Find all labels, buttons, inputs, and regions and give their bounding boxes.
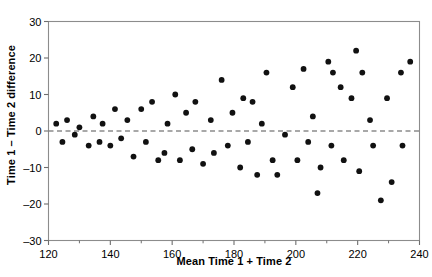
data-point	[97, 139, 103, 145]
data-point	[315, 190, 321, 196]
data-point	[353, 48, 359, 54]
data-point	[60, 139, 66, 145]
data-point	[172, 92, 178, 98]
data-point	[155, 157, 161, 163]
data-point	[282, 132, 288, 138]
data-point	[219, 77, 225, 83]
data-point	[189, 146, 195, 152]
data-point	[165, 121, 171, 127]
data-point	[64, 117, 70, 123]
data-point	[240, 95, 246, 101]
data-point	[378, 197, 384, 203]
y-tick-label: 30	[29, 16, 41, 28]
data-point	[124, 117, 130, 123]
y-tick-label: 0	[35, 125, 41, 137]
data-point	[107, 143, 113, 149]
data-point	[407, 59, 413, 65]
data-point	[138, 106, 144, 112]
x-axis-title: Mean Time 1 + Time 2	[48, 255, 420, 267]
data-point	[53, 121, 59, 127]
data-point	[254, 172, 260, 178]
y-tick-label: –10	[23, 162, 41, 174]
data-point	[400, 143, 406, 149]
data-point	[359, 70, 365, 76]
y-tick-label: 10	[29, 89, 41, 101]
y-axis-tick-labels: –30–20–100102030	[23, 16, 41, 247]
plot-svg: –30–20–100102030 120140160180200220240	[0, 0, 432, 277]
data-point	[131, 154, 137, 160]
data-point	[398, 70, 404, 76]
data-point	[349, 95, 355, 101]
data-point	[264, 70, 270, 76]
data-point	[211, 150, 217, 156]
data-point	[77, 124, 83, 130]
data-point	[90, 114, 96, 120]
plot-area: –30–20–100102030 120140160180200220240	[0, 0, 432, 277]
data-point	[367, 117, 373, 123]
data-point	[208, 117, 214, 123]
data-point	[183, 110, 189, 116]
data-point	[325, 59, 331, 65]
data-point	[149, 99, 155, 105]
y-tick-label: –30	[23, 235, 41, 247]
data-point	[86, 143, 92, 149]
data-point	[270, 157, 276, 163]
data-point	[143, 139, 149, 145]
data-point	[330, 70, 336, 76]
data-point	[294, 157, 300, 163]
data-point	[162, 150, 168, 156]
data-point	[112, 106, 118, 112]
data-point	[328, 143, 334, 149]
data-point	[200, 161, 206, 167]
data-point	[341, 157, 347, 163]
data-point	[192, 99, 198, 105]
data-point	[259, 121, 265, 127]
data-points	[53, 48, 413, 203]
y-tick-label: –20	[23, 198, 41, 210]
data-point	[310, 114, 316, 120]
data-point	[338, 84, 344, 90]
data-point	[237, 165, 243, 171]
data-point	[318, 165, 324, 171]
data-point	[225, 143, 231, 149]
data-point	[384, 95, 390, 101]
scatter-plot-figure: Time 1 – Time 2 difference –30–20–100102…	[0, 0, 432, 277]
data-point	[118, 135, 124, 141]
data-point	[100, 121, 106, 127]
axis-ticks	[44, 22, 420, 246]
data-point	[305, 139, 311, 145]
data-point	[245, 139, 251, 145]
data-point	[230, 110, 236, 116]
data-point	[370, 143, 376, 149]
y-tick-label: 20	[29, 52, 41, 64]
data-point	[274, 172, 280, 178]
data-point	[72, 132, 78, 138]
data-point	[177, 157, 183, 163]
data-point	[389, 179, 395, 185]
data-point	[250, 99, 256, 105]
data-point	[290, 84, 296, 90]
data-point	[356, 168, 362, 174]
data-point	[301, 66, 307, 72]
